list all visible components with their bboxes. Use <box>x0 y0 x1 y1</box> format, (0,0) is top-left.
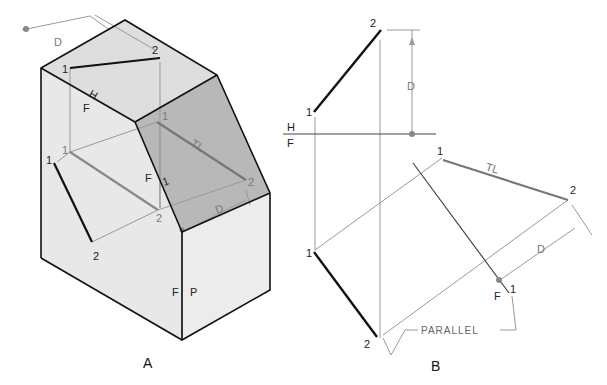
label-1: 1 <box>46 154 52 166</box>
label-1: 1 <box>306 106 312 118</box>
label-f: F <box>287 137 294 149</box>
true-length-line <box>443 160 568 200</box>
label-2: 2 <box>570 184 576 196</box>
label-f: F <box>172 286 179 298</box>
label-f: F <box>145 172 152 184</box>
top-view-line <box>314 30 381 112</box>
front-view-line <box>314 252 377 337</box>
label-1: 1 <box>62 144 68 156</box>
dimension-point <box>409 131 415 137</box>
label-2: 2 <box>152 44 158 56</box>
label-d: D <box>54 36 62 48</box>
label-parallel: PARALLEL <box>421 325 479 336</box>
label-2: 2 <box>248 176 254 188</box>
caption-a: A <box>143 355 153 371</box>
label-f: F <box>494 290 501 302</box>
label-h: H <box>287 121 295 133</box>
caption-b: B <box>431 358 440 374</box>
label-1: 1 <box>162 110 168 122</box>
label-2: 2 <box>364 338 370 350</box>
fold-line-f1 <box>413 163 509 293</box>
construction-lines <box>315 30 592 355</box>
figure-b: 2 D 1 H F 1 TL 2 1 D F 1 2 PARALLEL B <box>283 17 592 374</box>
label-f: F <box>83 102 90 114</box>
label-2: 2 <box>93 250 99 262</box>
label-2: 2 <box>370 17 376 29</box>
label-1: 1 <box>62 63 68 75</box>
arrow-icon <box>409 37 415 45</box>
label-2: 2 <box>156 212 162 224</box>
auxiliary-view-drawing: D 2 1 H F 1 TL 1 1 F 1 2 D 2 2 F P A <box>0 0 607 385</box>
dimension-point <box>23 26 29 32</box>
label-1: 1 <box>510 283 516 295</box>
label-p: P <box>190 286 197 298</box>
dimension-point <box>496 277 502 283</box>
label-1: 1 <box>437 145 443 157</box>
figure-a: D 2 1 H F 1 TL 1 1 F 1 2 D 2 2 F P A <box>22 15 270 371</box>
label-d: D <box>537 243 545 255</box>
label-1: 1 <box>306 247 312 259</box>
label-d: D <box>407 80 415 92</box>
